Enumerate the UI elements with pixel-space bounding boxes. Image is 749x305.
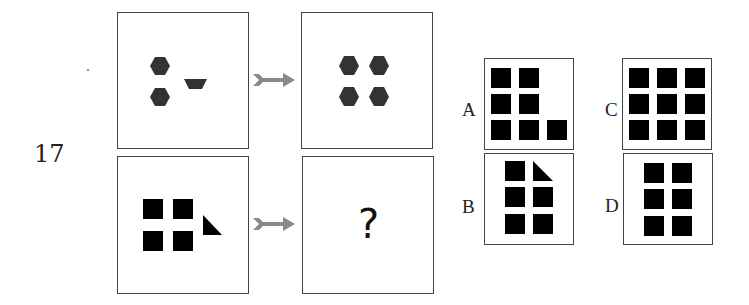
question-number: 17 [34,140,65,168]
option-b[interactable] [484,153,574,245]
option-a-label: A [462,99,476,121]
stray-dot [87,69,89,71]
hexagon-trapezoid-figure [118,13,250,150]
four-hexagons-figure [302,13,434,150]
option-d[interactable] [623,153,713,245]
option-c-label: C [605,99,618,121]
panel-problem-from [117,156,249,294]
option-b-label: B [462,196,475,218]
question-mark: ? [358,201,379,247]
arrow-icon [253,70,297,90]
squares-triangle-figure [118,157,250,295]
arrow-icon [253,214,297,234]
option-c[interactable] [622,58,712,150]
panel-example-from [117,12,249,149]
panel-problem-to: ? [302,156,434,294]
panel-example-to [301,12,433,149]
option-a[interactable] [484,58,574,150]
option-d-label: D [605,195,619,217]
